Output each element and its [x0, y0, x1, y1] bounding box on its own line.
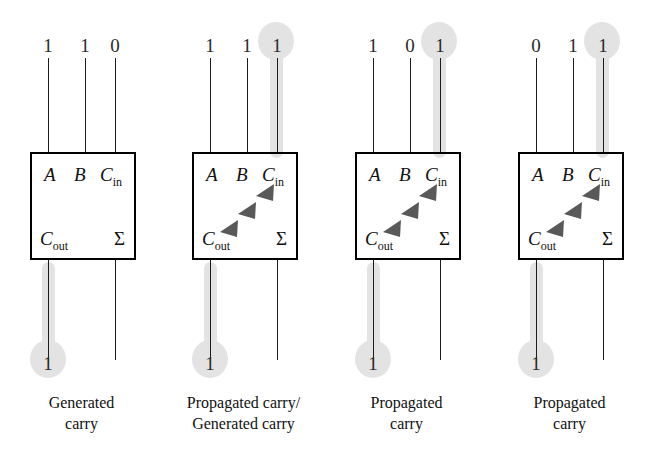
full-adder-box: A B Cin Cout Σ — [30, 152, 136, 260]
port-label-cin: Cin — [588, 165, 610, 184]
wire-input-cin — [603, 58, 604, 152]
port-label-a: A — [532, 165, 544, 184]
full-adder-block-2: 1 1 1 A B Cin Cout Σ 1 — [162, 0, 325, 460]
input-cin-value: 0 — [102, 36, 128, 55]
input-b-value: 1 — [560, 36, 586, 55]
block-caption: Propagated carry — [488, 392, 650, 434]
block-caption: Propagated carry — [325, 392, 488, 434]
port-label-sum: Σ — [276, 229, 287, 248]
port-label-b: B — [236, 165, 248, 184]
input-a-value: 1 — [360, 36, 386, 55]
output-cout-value: 1 — [35, 354, 61, 373]
caption-line-2: carry — [325, 413, 488, 434]
wire-input-b — [247, 58, 248, 152]
output-cout-value: 1 — [523, 354, 549, 373]
caption-line-2: Generated carry — [162, 413, 325, 434]
caption-line-1: Propagated — [325, 392, 488, 413]
full-adder-box: A B Cin Cout Σ — [355, 152, 461, 260]
wire-output-sum — [603, 260, 604, 360]
full-adder-block-4: 0 1 1 A B Cin Cout Σ 1 — [488, 0, 650, 460]
input-cin-value: 1 — [427, 36, 453, 55]
output-cout-value: 1 — [360, 354, 386, 373]
wire-input-a — [48, 58, 49, 152]
wire-output-cout — [210, 260, 211, 363]
port-label-cout: Cout — [528, 229, 556, 248]
port-label-a: A — [206, 165, 218, 184]
port-label-b: B — [562, 165, 574, 184]
input-a-value: 1 — [197, 36, 223, 55]
wire-input-cin — [440, 58, 441, 152]
wire-input-a — [210, 58, 211, 152]
port-label-a: A — [369, 165, 381, 184]
output-cout-value: 1 — [197, 354, 223, 373]
input-cin-value: 1 — [264, 36, 290, 55]
wire-input-b — [573, 58, 574, 152]
block-caption: Propagated carry/ Generated carry — [162, 392, 325, 434]
caption-line-1: Generated — [0, 392, 163, 413]
full-adder-box: A B Cin Cout Σ — [192, 152, 298, 260]
port-label-sum: Σ — [114, 229, 125, 248]
wire-input-b — [410, 58, 411, 152]
port-label-sum: Σ — [439, 229, 450, 248]
full-adder-carry-diagram: 1 1 0 A B Cin Cout Σ 1 — [0, 0, 650, 460]
wire-output-cout — [536, 260, 537, 363]
wire-input-a — [373, 58, 374, 152]
input-a-value: 0 — [523, 36, 549, 55]
port-label-cout: Cout — [365, 229, 393, 248]
caption-line-1: Propagated — [488, 392, 650, 413]
wire-input-cin — [115, 58, 116, 152]
caption-line-2: carry — [0, 413, 163, 434]
wire-output-cout — [48, 260, 49, 363]
input-a-value: 1 — [35, 36, 61, 55]
wire-output-sum — [115, 260, 116, 360]
port-label-cin: Cin — [262, 165, 284, 184]
wire-output-sum — [277, 260, 278, 360]
port-label-b: B — [399, 165, 411, 184]
caption-line-1: Propagated carry/ — [162, 392, 325, 413]
port-label-cout: Cout — [202, 229, 230, 248]
input-b-value: 1 — [234, 36, 260, 55]
input-b-value: 1 — [72, 36, 98, 55]
port-label-sum: Σ — [602, 229, 613, 248]
input-cin-value: 1 — [590, 36, 616, 55]
port-label-b: B — [74, 165, 86, 184]
port-label-cin: Cin — [425, 165, 447, 184]
caption-line-2: carry — [488, 413, 650, 434]
port-label-cout: Cout — [40, 229, 68, 248]
block-caption: Generated carry — [0, 392, 163, 434]
full-adder-block-3: 1 0 1 A B Cin Cout Σ 1 — [325, 0, 488, 460]
full-adder-block-1: 1 1 0 A B Cin Cout Σ 1 — [0, 0, 163, 460]
wire-input-b — [85, 58, 86, 152]
wire-output-cout — [373, 260, 374, 363]
port-label-a: A — [44, 165, 56, 184]
port-label-cin: Cin — [100, 165, 122, 184]
wire-input-a — [536, 58, 537, 152]
wire-output-sum — [440, 260, 441, 360]
input-b-value: 0 — [397, 36, 423, 55]
wire-input-cin — [277, 58, 278, 152]
full-adder-box: A B Cin Cout Σ — [518, 152, 624, 260]
